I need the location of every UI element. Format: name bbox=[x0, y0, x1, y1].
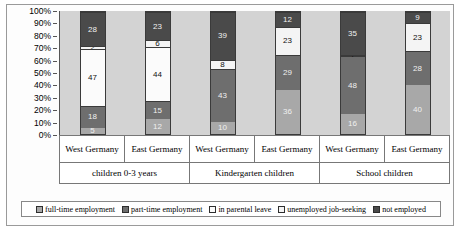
category-row-groups: children 0-3 yearsKindergarten childrenS… bbox=[60, 163, 450, 184]
legend-label: part-time employment bbox=[131, 205, 202, 214]
y-axis-tick-label: 20% bbox=[34, 106, 51, 114]
bar-segment[interactable]: 36 bbox=[276, 90, 300, 134]
bar-segment[interactable]: 47 bbox=[81, 49, 105, 106]
bar-segment-value: 47 bbox=[88, 74, 97, 82]
y-axis-tick-label: 80% bbox=[34, 32, 51, 40]
legend-item[interactable]: in parental leave bbox=[209, 205, 271, 214]
bar-segment[interactable]: 6 bbox=[146, 40, 170, 47]
legend-label: full-time employment bbox=[45, 205, 115, 214]
bar-segment[interactable]: 35 bbox=[341, 12, 365, 55]
y-axis-tick-mark bbox=[53, 123, 57, 124]
bar-segment[interactable]: 12 bbox=[276, 12, 300, 27]
y-axis-tick-label: 10% bbox=[34, 119, 51, 127]
stacked-bar[interactable]: 1043839 bbox=[210, 11, 236, 135]
bar-segment[interactable]: 23 bbox=[276, 27, 300, 55]
bar-segment-value: 36 bbox=[283, 108, 292, 116]
bar-segment[interactable]: 1 bbox=[341, 55, 365, 56]
bar-segment-value: 16 bbox=[348, 120, 357, 128]
chart-legend: full-time employmentpart-time employment… bbox=[21, 201, 441, 217]
bar-segment[interactable]: 18 bbox=[81, 106, 105, 128]
bar-segment-value: 12 bbox=[153, 123, 162, 131]
bar-segment-value: 10 bbox=[218, 124, 227, 132]
bar-segment-value: 48 bbox=[348, 82, 357, 90]
legend-swatch-icon bbox=[122, 206, 129, 213]
bar-group-container: 5184722812154462310438393629231216481354… bbox=[60, 11, 450, 135]
y-axis-tick-mark bbox=[53, 61, 57, 62]
bar-segment-value: 44 bbox=[153, 71, 162, 79]
bar-segment-value: 35 bbox=[348, 30, 357, 38]
plot-area: 5184722812154462310438393629231216481354… bbox=[59, 11, 450, 136]
bar-segment-value: 29 bbox=[283, 69, 292, 77]
stacked-bar[interactable]: 4028239 bbox=[405, 11, 431, 135]
legend-item[interactable]: full-time employment bbox=[36, 205, 115, 214]
y-axis-tick-label: 90% bbox=[34, 19, 51, 27]
y-axis-tick-mark bbox=[53, 135, 57, 136]
bar-segment[interactable]: 2 bbox=[81, 46, 105, 48]
y-axis-tick-mark bbox=[53, 85, 57, 86]
legend-item[interactable]: not employed bbox=[373, 205, 426, 214]
bar-segment[interactable]: 12 bbox=[146, 119, 170, 134]
bar-segment-value: 40 bbox=[413, 106, 422, 114]
bar-segment[interactable]: 5 bbox=[81, 128, 105, 134]
plot-wrapper: 100%90%80%70%60%50%40%30%20%10%0% 518472… bbox=[7, 11, 455, 149]
y-axis-tick-mark bbox=[53, 98, 57, 99]
legend-item[interactable]: part-time employment bbox=[122, 205, 202, 214]
bar-segment[interactable]: 23 bbox=[406, 23, 430, 51]
bar-segment[interactable]: 43 bbox=[211, 69, 235, 121]
bar-segment-value: 12 bbox=[283, 16, 292, 24]
bar-slot: 4028239 bbox=[385, 11, 450, 135]
bar-slot: 51847228 bbox=[60, 11, 125, 135]
stacked-bar-chart: 100%90%80%70%60%50%40%30%20%10%0% 518472… bbox=[6, 4, 454, 226]
y-axis-tick-label: 50% bbox=[34, 69, 51, 77]
bar-segment-value: 28 bbox=[413, 65, 422, 73]
bar-segment[interactable]: 8 bbox=[211, 60, 235, 70]
bar-segment[interactable]: 28 bbox=[406, 51, 430, 85]
y-axis-tick-label: 40% bbox=[34, 81, 51, 89]
bar-slot: 36292312 bbox=[255, 11, 320, 135]
bar-segment-value: 39 bbox=[218, 32, 227, 40]
stacked-bar[interactable]: 51847228 bbox=[80, 11, 106, 135]
bar-segment[interactable]: 9 bbox=[406, 12, 430, 23]
y-axis-tick-label: 60% bbox=[34, 57, 51, 65]
bar-slot: 121544623 bbox=[125, 11, 190, 135]
category-label-region: East Germany bbox=[125, 136, 190, 163]
bar-segment-value: 2 bbox=[90, 46, 94, 48]
bar-segment-value: 23 bbox=[283, 37, 292, 45]
legend-swatch-icon bbox=[373, 206, 380, 213]
bar-segment[interactable]: 15 bbox=[146, 101, 170, 119]
bar-segment[interactable]: 48 bbox=[341, 56, 365, 115]
legend-label: unemployed job-seeking bbox=[287, 205, 366, 214]
category-label-group: children 0-3 years bbox=[60, 163, 190, 184]
bar-slot: 1648135 bbox=[320, 11, 385, 135]
category-label-region: West Germany bbox=[190, 136, 255, 163]
category-label-region: East Germany bbox=[255, 136, 320, 163]
bar-segment[interactable]: 23 bbox=[146, 12, 170, 40]
category-label-region: West Germany bbox=[320, 136, 385, 163]
bar-segment[interactable]: 39 bbox=[211, 12, 235, 60]
bar-segment[interactable]: 28 bbox=[81, 12, 105, 46]
y-axis-tick-mark bbox=[53, 23, 57, 24]
bar-segment-value: 18 bbox=[88, 113, 97, 121]
bar-segment[interactable]: 44 bbox=[146, 47, 170, 101]
stacked-bar[interactable]: 121544623 bbox=[145, 11, 171, 135]
stacked-bar[interactable]: 1648135 bbox=[340, 11, 366, 135]
y-axis-tick-mark bbox=[53, 11, 57, 12]
y-axis-tick-label: 30% bbox=[34, 94, 51, 102]
stacked-bar[interactable]: 36292312 bbox=[275, 11, 301, 135]
bar-segment[interactable]: 16 bbox=[341, 114, 365, 134]
bar-segment-value: 15 bbox=[153, 107, 162, 115]
legend-swatch-icon bbox=[209, 206, 216, 213]
legend-item[interactable]: unemployed job-seeking bbox=[278, 205, 366, 214]
bar-segment[interactable]: 29 bbox=[276, 55, 300, 90]
bar-segment-value: 23 bbox=[153, 23, 162, 31]
y-axis-tick-label: 0% bbox=[39, 131, 51, 139]
legend-label: not employed bbox=[382, 205, 426, 214]
bar-segment[interactable]: 10 bbox=[211, 122, 235, 134]
bar-segment-value: 6 bbox=[155, 40, 159, 47]
category-label-group: Kindergarten children bbox=[190, 163, 320, 184]
bar-segment[interactable]: 40 bbox=[406, 85, 430, 134]
legend-label: in parental leave bbox=[218, 205, 271, 214]
legend-swatch-icon bbox=[36, 206, 43, 213]
category-row-regions: West GermanyEast GermanyWest GermanyEast… bbox=[60, 136, 450, 163]
bar-segment-value: 43 bbox=[218, 92, 227, 100]
